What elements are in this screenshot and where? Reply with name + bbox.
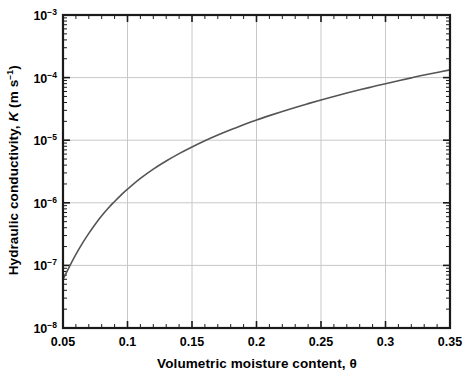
y-axis-title-text: Hydraulic conductivity, K (m s−1) [5, 65, 22, 275]
x-tick-label: 0.25 [309, 335, 333, 349]
y-axis-title: Hydraulic conductivity, K (m s−1) [0, 0, 26, 340]
y-tick-label: 10−6 [33, 195, 57, 211]
x-axis-title-text: Volumetric moisture content, θ [157, 356, 357, 371]
x-tick-label: 0.05 [51, 335, 75, 349]
y-tick-label: 10−3 [33, 7, 57, 23]
chart-figure: 10−310−410−510−610−710−8 0.050.10.150.20… [0, 0, 467, 379]
x-tick-label: 0.15 [180, 335, 204, 349]
gridlines [63, 15, 450, 328]
x-tick-label: 0.2 [248, 335, 265, 349]
x-tick-label: 0.3 [377, 335, 394, 349]
y-tick-label: 10−7 [33, 257, 57, 273]
x-tick-label: 0.35 [438, 335, 462, 349]
y-tick-label: 10−4 [33, 70, 57, 86]
x-axis-title: Volumetric moisture content, θ [63, 354, 451, 372]
x-tick-label: 0.1 [119, 335, 136, 349]
plot-area [0, 0, 467, 379]
y-tick-label: 10−8 [33, 320, 57, 336]
y-tick-label: 10−5 [33, 132, 57, 148]
